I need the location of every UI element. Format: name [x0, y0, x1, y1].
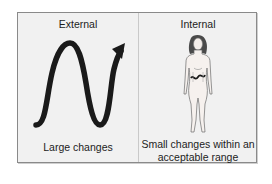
comparison-diagram: External Large changes Internal Small ch…: [17, 12, 257, 163]
wave-arrow-icon: [32, 39, 128, 131]
internal-caption-line-1: Small changes within an: [139, 138, 257, 151]
external-caption: Large changes: [18, 141, 138, 154]
external-panel: External Large changes: [18, 13, 138, 162]
internal-caption: Small changes within an acceptable range: [139, 138, 257, 164]
external-title: External: [18, 18, 138, 30]
human-figure-icon: [181, 34, 215, 138]
internal-title: Internal: [139, 18, 257, 30]
internal-panel: Internal Small changes within an accepta…: [139, 13, 257, 162]
internal-caption-line-2: acceptable range: [139, 151, 257, 164]
